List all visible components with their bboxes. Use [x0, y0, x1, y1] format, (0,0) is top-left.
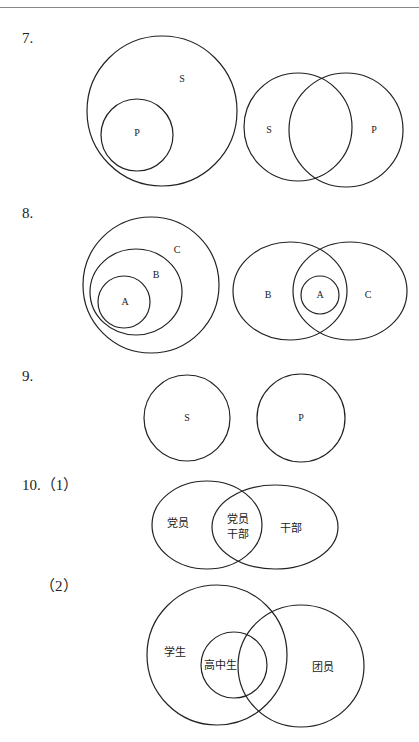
ellipse-b [233, 242, 347, 340]
q8-diagram-overlap: B A C [233, 242, 407, 340]
label-party-members: 党员 [167, 517, 189, 530]
label-s: S [266, 124, 272, 135]
label-cadres: 干部 [280, 521, 302, 535]
venn-diagrams: S P S P C B A B A C S P 党员 党员 干部 [0, 0, 419, 742]
label-c: C [365, 289, 372, 300]
circle-b [90, 249, 182, 335]
q10-1-diagram: 党员 党员 干部 干部 [152, 481, 338, 569]
q10-2-diagram: 学生 高中生 团员 [147, 585, 364, 727]
label-p: P [371, 124, 377, 135]
label-c: C [174, 244, 181, 255]
q8-diagram-nested: C B A [83, 217, 219, 353]
label-b: B [153, 269, 160, 280]
q7-diagram-overlap: S P [244, 73, 403, 187]
label-s: S [184, 412, 190, 423]
q7-diagram-subset: S P [87, 36, 237, 186]
label-a: A [316, 289, 324, 300]
label-overlap-line2: 干部 [227, 527, 249, 541]
label-p: P [298, 412, 304, 423]
label-overlap-line1: 党员 [227, 513, 249, 526]
label-b: B [265, 289, 272, 300]
ellipse-cadres [212, 485, 338, 569]
circle-s [244, 73, 352, 181]
label-high-school-students: 高中生 [204, 658, 237, 672]
label-p: P [134, 127, 140, 138]
label-league-members: 团员 [312, 661, 334, 674]
label-s: S [179, 73, 185, 84]
circle-league-members [238, 605, 364, 727]
label-a: A [121, 296, 129, 307]
ellipse-c [293, 242, 407, 340]
circle-p [289, 73, 403, 187]
q9-diagram-disjoint: S P [144, 374, 345, 462]
label-students: 学生 [164, 645, 186, 659]
